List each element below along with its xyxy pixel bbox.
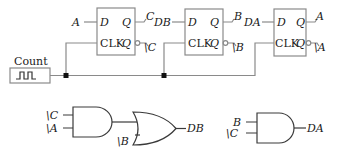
and-1-input-c: \C	[46, 109, 59, 122]
q-pin-label: Q	[122, 16, 131, 29]
q-pin-label: Q	[296, 16, 305, 29]
ff-b-d-input: DB	[153, 16, 171, 29]
d-pin-label: D	[99, 16, 109, 29]
junction-dot	[64, 73, 69, 78]
qbar-pin-label: Q	[210, 37, 219, 50]
flip-flop-c: A D Q CLK Q C \C	[71, 8, 157, 55]
clk-pin-label: CLK	[100, 37, 125, 50]
junction-dot	[162, 73, 167, 78]
db-output-label: DB	[186, 122, 204, 135]
d-pin-label: D	[187, 16, 197, 29]
and-1-input-a: \A	[46, 122, 58, 135]
qbar-pin-label: Q	[122, 37, 131, 50]
ff-a-qbar-output: \A	[314, 41, 326, 54]
inversion-bubble	[306, 41, 311, 46]
ff-c-qbar-output: \C	[144, 41, 157, 54]
da-logic: B \C DA	[226, 113, 324, 143]
ff-c-d-input: A	[71, 16, 80, 29]
inversion-bubble	[135, 41, 140, 46]
da-output-label: DA	[306, 122, 324, 135]
q-pin-label: Q	[210, 16, 219, 29]
and-2-input-c: \C	[226, 127, 239, 140]
circuit-diagram: Count A D Q CLK Q C \C DB D Q CLK Q B \B…	[0, 0, 338, 152]
or-input-b: \B	[117, 135, 129, 148]
ff-b-q-output: B	[233, 10, 242, 23]
clk-pin-label: CLK	[188, 37, 213, 50]
inversion-bubble	[223, 41, 228, 46]
or-gate	[133, 112, 176, 145]
and-gate-2	[257, 113, 294, 143]
clock-source: Count	[10, 55, 50, 83]
ff-b-qbar-output: \B	[232, 41, 244, 54]
db-logic: \C \A \B DB	[46, 107, 204, 148]
qbar-pin-label: Q	[296, 37, 305, 50]
ff-a-d-input: DA	[243, 16, 261, 29]
d-pin-label: D	[276, 16, 286, 29]
flip-flop-b: DB D Q CLK Q B \B	[153, 9, 244, 55]
clock-label: Count	[14, 55, 48, 68]
and-gate-1	[73, 107, 112, 137]
ff-a-q-output: A	[315, 10, 324, 23]
clock-box	[10, 68, 50, 83]
